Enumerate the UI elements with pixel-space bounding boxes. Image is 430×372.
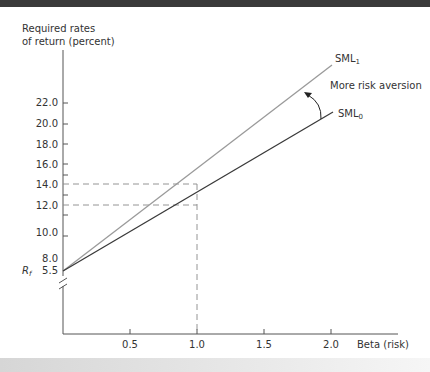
bottom-border xyxy=(0,358,430,372)
risk-aversion-arrow-icon xyxy=(304,92,321,119)
sml0-label: SML0 xyxy=(338,108,363,121)
svg-text:8.0: 8.0 xyxy=(42,253,58,264)
x-ticks xyxy=(130,329,331,334)
y-axis xyxy=(59,50,67,334)
svg-text:20.0: 20.0 xyxy=(36,118,58,129)
svg-text:5.5: 5.5 xyxy=(42,265,58,276)
svg-text:14.0: 14.0 xyxy=(36,179,58,190)
annotation-more-risk-aversion: More risk aversion xyxy=(330,80,422,91)
rf-label: Rf xyxy=(22,265,33,278)
sml1-line xyxy=(63,65,332,271)
x-axis-label: Beta (risk) xyxy=(357,339,409,350)
svg-text:12.0: 12.0 xyxy=(36,200,58,211)
svg-text:16.0: 16.0 xyxy=(36,159,58,170)
svg-text:22.0: 22.0 xyxy=(36,97,58,108)
x-tick-labels: 0.5 1.0 1.5 2.0 xyxy=(122,339,339,350)
svg-text:10.0: 10.0 xyxy=(36,227,58,238)
y-axis-label-line1: Required rates xyxy=(22,23,95,34)
svg-text:1.0: 1.0 xyxy=(189,339,205,350)
sml-chart: Required rates of return (percent) 22.0 … xyxy=(0,0,430,372)
svg-text:0.5: 0.5 xyxy=(122,339,138,350)
y-axis-label-line2: of return (percent) xyxy=(22,36,115,47)
y-ticks xyxy=(63,103,68,236)
y-tick-labels: 22.0 20.0 18.0 16.0 14.0 12.0 10.0 8.0 5… xyxy=(36,97,58,276)
svg-text:18.0: 18.0 xyxy=(36,139,58,150)
sml1-label: SML1 xyxy=(335,53,360,66)
svg-text:1.5: 1.5 xyxy=(256,339,272,350)
sml0-line xyxy=(63,112,333,271)
svg-text:2.0: 2.0 xyxy=(323,339,339,350)
